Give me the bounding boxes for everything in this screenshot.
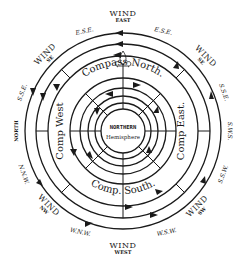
arrow-icon xyxy=(133,82,141,88)
wind-left-label: NORTH xyxy=(13,120,19,142)
wind-top-dir: EAST xyxy=(115,17,130,23)
wind-lower-left: WIND NW xyxy=(33,193,62,222)
wind-lower-right: WIND SW xyxy=(185,194,214,223)
compass-west-label: Comp West xyxy=(54,102,65,159)
spoke-sw-outer xyxy=(62,184,71,193)
intermediate-top-left: E.S.E. xyxy=(74,25,95,36)
arrow-icon xyxy=(155,189,163,195)
intermediate-bottom-right: W.S.W. xyxy=(156,226,177,237)
wind-right-label: S.W.S. xyxy=(227,122,234,141)
wind-circulation-diagram: NORTHERN Hemisphere Compass North. Comp.… xyxy=(0,0,243,258)
arrow-icon xyxy=(36,179,43,186)
compass-east-label: Comp East. xyxy=(175,102,186,160)
center-label-line2: Hemisphere xyxy=(106,134,140,141)
wind-upper-left: WIND SE xyxy=(33,42,62,71)
center-ring xyxy=(101,109,145,153)
svg-text:WIND: WIND xyxy=(36,193,61,218)
arrow-icon xyxy=(94,108,100,115)
wind-bottom-dir: WEST xyxy=(114,249,132,255)
arrow-icon xyxy=(115,41,123,47)
intermediate-top-right: E.S.E. xyxy=(153,25,174,36)
arrow-icon xyxy=(153,106,159,113)
center-label-line1: NORTHERN xyxy=(110,124,137,130)
intermediate-upper-left-side: S.S.E. xyxy=(15,82,28,101)
intermediate-lower-right-side: S.S.W. xyxy=(216,164,229,184)
arrow-icon xyxy=(30,88,36,96)
intermediate-bottom-left: W.N.W. xyxy=(70,226,92,237)
spoke-nw-outer xyxy=(62,70,71,79)
svg-text:WIND: WIND xyxy=(33,42,58,67)
arrow-icon xyxy=(146,146,152,153)
arrow-icon xyxy=(53,84,60,91)
svg-text:WIND: WIND xyxy=(185,194,210,219)
intermediate-upper-right-side: S.S.E. xyxy=(218,83,231,102)
arrow-icon xyxy=(40,93,46,101)
spoke-ne-outer xyxy=(176,70,185,79)
wind-upper-right: WIND SE xyxy=(190,44,219,73)
intermediate-lower-left-side: N.N.W. xyxy=(17,162,31,185)
arrow-icon xyxy=(200,176,206,184)
spoke-se-outer xyxy=(176,184,185,193)
arrow-icon xyxy=(115,30,123,36)
svg-text:WIND: WIND xyxy=(193,44,218,69)
